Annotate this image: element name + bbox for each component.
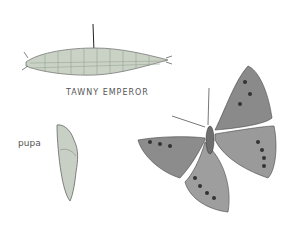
pupa-label: pupa bbox=[18, 138, 41, 148]
illustration-drawing bbox=[0, 0, 293, 235]
plate-title: TAWNY EMPEROR bbox=[66, 88, 149, 97]
caterpillar-illustration bbox=[22, 24, 172, 75]
illustration-plate: TAWNY EMPEROR pupa bbox=[0, 0, 293, 235]
pupa-illustration bbox=[57, 125, 78, 201]
butterfly-illustration bbox=[138, 66, 276, 212]
